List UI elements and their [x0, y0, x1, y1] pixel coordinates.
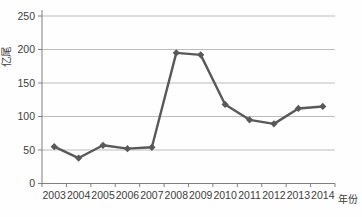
chart-canvas: 0501001502002502003200420052006200720082… — [0, 0, 362, 217]
x-axis-title: 年份 — [338, 193, 358, 205]
x-tick-label: 2014 — [311, 189, 335, 201]
y-tick-label: 0 — [29, 177, 35, 189]
data-point-marker — [319, 103, 326, 110]
data-point-marker — [124, 145, 131, 152]
x-tick-label: 2007 — [140, 189, 164, 201]
x-tick-label: 2004 — [67, 189, 91, 201]
y-tick-label: 200 — [17, 43, 35, 55]
data-point-marker — [51, 143, 58, 150]
line-chart: 0501001502002502003200420052006200720082… — [0, 0, 362, 217]
y-tick-label: 100 — [17, 110, 35, 122]
x-tick-label: 2011 — [238, 189, 261, 201]
y-axis-title: 亿尾 — [0, 47, 12, 67]
data-point-marker — [173, 49, 180, 56]
y-tick-label: 150 — [17, 77, 35, 89]
x-tick-label: 2003 — [43, 189, 67, 201]
x-tick-label: 2010 — [213, 189, 237, 201]
series-line — [54, 53, 323, 158]
x-tick-label: 2005 — [91, 189, 115, 201]
x-tick-label: 2008 — [165, 189, 189, 201]
y-tick-label: 50 — [23, 144, 35, 156]
x-tick-label: 2009 — [189, 189, 213, 201]
x-tick-label: 2012 — [262, 189, 286, 201]
y-tick-label: 250 — [17, 10, 35, 22]
x-tick-label: 2013 — [287, 189, 311, 201]
x-tick-label: 2006 — [116, 189, 140, 201]
